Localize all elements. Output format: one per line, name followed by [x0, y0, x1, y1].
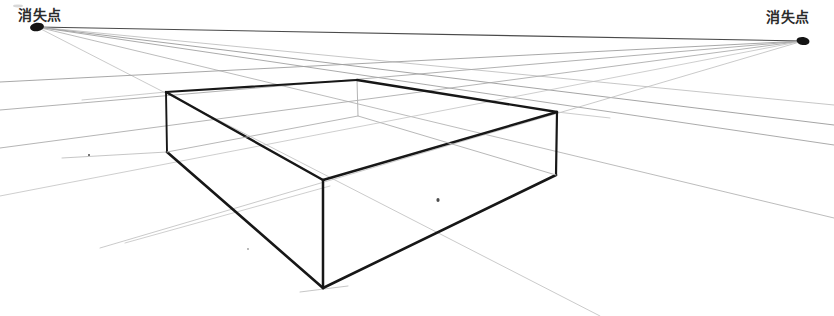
stub-lower-left-guide: [125, 186, 330, 243]
box-group: [166, 80, 557, 288]
edge-top-left-to-back: [166, 80, 357, 92]
vertical-edge-right: [556, 112, 557, 175]
rays-from-left-vp: [37, 27, 834, 316]
vanishing-point-right-label: 消失点: [766, 10, 810, 24]
vanishing-point-right-dot: [796, 36, 810, 46]
perspective-drawing: [0, 0, 834, 316]
stub-left-bottom-overshoot: [62, 152, 167, 158]
edge-top-back-to-right: [357, 80, 557, 112]
construction-lines-group: [0, 27, 834, 316]
edge-bottom-left-to-front: [167, 152, 323, 288]
ray-right-vp-through-right-bottom: [0, 41, 803, 196]
ray-right-vp-through-left-bottom: [0, 41, 803, 148]
speck-left: [88, 154, 90, 156]
edge-top-right-to-front: [323, 112, 557, 180]
ray-left-vp-to-back-bottom: [37, 27, 834, 218]
vertical-edge-back-hidden: [357, 80, 358, 116]
edge-bottom-back-to-right-hidden: [358, 116, 556, 175]
stub-left-top-overshoot: [82, 92, 166, 100]
ray-left-vp-ground-lower: [37, 27, 600, 316]
stub-right-top-overshoot: [557, 112, 610, 118]
horizon-line: [37, 27, 803, 41]
vanishing-point-left-label: 消失点: [18, 8, 62, 22]
box-vertical-edges: [166, 92, 557, 288]
edge-top-front-to-left: [166, 92, 323, 180]
vertical-edge-left: [166, 92, 167, 152]
vanishing-point-left-dot: [29, 22, 44, 32]
ray-left-vp-through-right-top: [37, 27, 834, 125]
paper-specks: [13, 5, 440, 250]
perspective-diagram-canvas: 消失点 消失点: [0, 0, 834, 316]
speck-upper: [247, 248, 249, 250]
box-bottom-face: [167, 116, 556, 288]
speck-center: [436, 198, 439, 202]
